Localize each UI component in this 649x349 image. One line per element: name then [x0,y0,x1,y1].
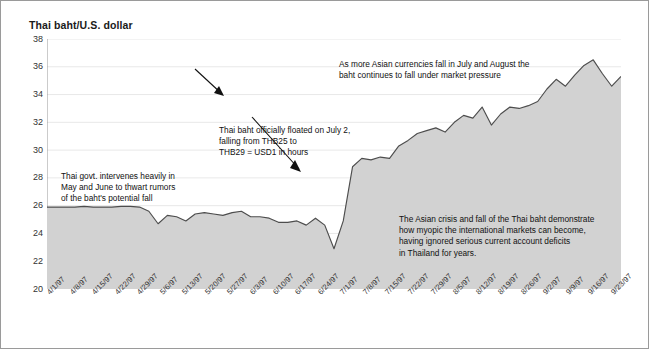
y-axis-tick-32: 32 [33,118,43,127]
y-axis-tick-30: 30 [33,146,43,155]
annotation-asian-crisis-summary: The Asian crisis and fall of the Thai ba… [399,214,594,259]
y-axis-tick-24: 24 [33,229,43,238]
y-axis-tick-28: 28 [33,173,43,182]
y-axis-tick-26: 26 [33,201,43,210]
y-axis-tick-34: 34 [33,90,43,99]
annotation-govt-intervention: Thai govt. intervenes heavily in May and… [61,171,175,205]
chart-title: Thai baht/U.S. dollar [29,19,133,31]
annotation-asian-currencies: As more Asian currencies fall in July an… [339,59,529,81]
y-axis-tick-22: 22 [33,257,43,266]
y-axis-tick-20: 20 [33,285,43,294]
y-axis-tick-36: 36 [33,62,43,71]
annotation-baht-floated: Thai baht officially floated on July 2, … [219,125,350,159]
y-axis-labels: 20222426283032343638 [1,39,43,289]
arrow-floated-head [290,160,301,172]
chart-figure: Thai baht/U.S. dollar 202224262830323436… [0,0,649,349]
y-axis-tick-38: 38 [33,35,43,44]
x-axis-labels: 4/1/974/8/974/15/974/22/974/29/975/6/975… [47,290,627,348]
